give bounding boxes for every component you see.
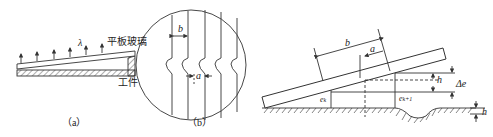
c-spacing-b-label: b	[345, 38, 350, 48]
figure-b	[136, 10, 246, 120]
delta-e-label: Δe	[456, 79, 466, 89]
gap-ek-label: ek	[320, 96, 326, 104]
figure-a	[17, 44, 135, 76]
fringe-lines	[166, 10, 237, 120]
view-circle	[136, 10, 246, 120]
glass-plate	[262, 48, 446, 108]
fringe-spacing-b-label: b	[178, 24, 183, 34]
height-h-label: h	[437, 75, 442, 85]
fringe-bend-a-label: a	[196, 71, 201, 81]
glass-plate-label: 平板玻璃	[107, 37, 147, 47]
workpiece	[17, 70, 135, 76]
caption-a: （a）	[62, 118, 86, 128]
gap-ek1-label: ek+1	[399, 95, 412, 103]
wavelength-label: λ	[78, 38, 82, 48]
caption-b: （b）	[187, 118, 212, 128]
glass-plate	[17, 51, 135, 69]
defect-h-label: h	[482, 107, 487, 117]
workpiece-label: 工件	[118, 78, 138, 88]
c-bend-a-label: a	[370, 44, 375, 54]
spacer-block	[128, 56, 135, 76]
